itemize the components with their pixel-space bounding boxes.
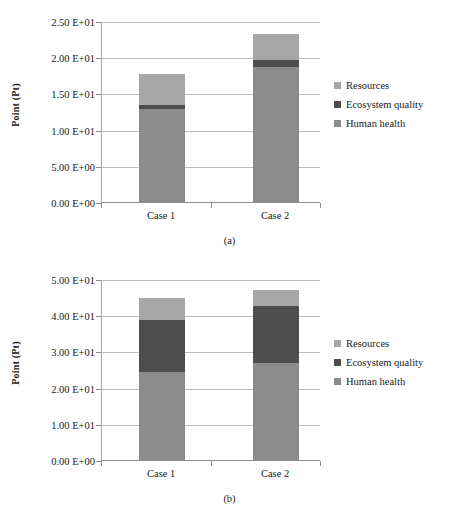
x-tick-label: Case 2 xyxy=(235,210,315,221)
figure-panel-a: Point (Pt)0.00 E+005.00 E+001.00 E+011.5… xyxy=(0,0,459,260)
y-tick-label: 5.00 E+00 xyxy=(5,161,95,172)
y-tick-label: 1.00 E+01 xyxy=(5,419,95,430)
y-tick-mark xyxy=(96,22,101,23)
bar-segment-human-health xyxy=(253,67,299,203)
x-tick-mark xyxy=(101,461,102,466)
stacked-bar xyxy=(139,298,185,461)
y-axis-title: Point (Pt) xyxy=(10,308,21,418)
y-tick-label: 3.00 E+01 xyxy=(5,347,95,358)
legend-item: Resources xyxy=(334,338,459,349)
x-tick-label: Case 1 xyxy=(121,210,201,221)
y-tick-label: 2.00 E+01 xyxy=(5,53,95,64)
x-tick-label: Case 1 xyxy=(121,468,201,479)
legend-item: Resources xyxy=(334,80,459,91)
legend-swatch-icon xyxy=(334,82,341,89)
y-tick-mark xyxy=(96,131,101,132)
y-tick-label: 2.50 E+01 xyxy=(5,17,95,28)
y-tick-mark xyxy=(96,352,101,353)
panel-caption: (b) xyxy=(0,493,459,504)
plot-area xyxy=(101,280,320,461)
y-tick-mark xyxy=(96,94,101,95)
x-tick-mark xyxy=(101,203,102,208)
bar-segment-resources xyxy=(253,34,299,59)
legend-swatch-icon xyxy=(334,378,341,385)
legend-item: Human health xyxy=(334,376,459,387)
bar-segment-ecosystem-quality xyxy=(253,60,299,67)
y-tick-label: 1.50 E+01 xyxy=(5,89,95,100)
y-tick-mark xyxy=(96,389,101,390)
figure-panel-b: Point (Pt)0.00 E+001.00 E+012.00 E+013.0… xyxy=(0,258,459,518)
bar-segment-resources xyxy=(139,74,185,104)
legend-label: Human health xyxy=(346,376,405,387)
y-tick-label: 0.00 E+00 xyxy=(5,456,95,467)
legend-item: Human health xyxy=(334,118,459,129)
stacked-bar xyxy=(253,290,299,461)
legend-swatch-icon xyxy=(334,120,341,127)
y-gridline xyxy=(102,22,320,23)
legend-label: Ecosystem quality xyxy=(346,357,423,368)
x-tick-mark xyxy=(211,461,212,466)
x-tick-mark xyxy=(211,203,212,208)
y-tick-mark xyxy=(96,58,101,59)
legend-item: Ecosystem quality xyxy=(334,99,459,110)
y-tick-label: 4.00 E+01 xyxy=(5,311,95,322)
legend-label: Resources xyxy=(346,338,389,349)
legend-label: Human health xyxy=(346,118,405,129)
bar-segment-human-health xyxy=(253,363,299,461)
y-gridline xyxy=(102,280,320,281)
bar-segment-human-health xyxy=(139,372,185,461)
legend-swatch-icon xyxy=(334,101,341,108)
x-tick-mark xyxy=(320,461,321,466)
legend-swatch-icon xyxy=(334,359,341,366)
y-tick-label: 0.00 E+00 xyxy=(5,198,95,209)
legend: ResourcesEcosystem qualityHuman health xyxy=(334,338,459,395)
stacked-bar xyxy=(139,74,185,203)
x-tick-mark xyxy=(320,203,321,208)
y-axis-title: Point (Pt) xyxy=(10,50,21,160)
y-tick-mark xyxy=(96,425,101,426)
y-tick-label: 5.00 E+01 xyxy=(5,275,95,286)
y-tick-label: 2.00 E+01 xyxy=(5,383,95,394)
bar-segment-resources xyxy=(139,298,185,320)
legend: ResourcesEcosystem qualityHuman health xyxy=(334,80,459,137)
legend-label: Resources xyxy=(346,80,389,91)
y-tick-mark xyxy=(96,167,101,168)
legend-swatch-icon xyxy=(334,340,341,347)
stacked-bar xyxy=(253,34,299,203)
bar-segment-ecosystem-quality xyxy=(139,320,185,372)
panel-caption: (a) xyxy=(0,235,459,246)
y-tick-label: 1.00 E+01 xyxy=(5,125,95,136)
y-tick-mark xyxy=(96,280,101,281)
bar-segment-ecosystem-quality xyxy=(253,306,299,363)
legend-label: Ecosystem quality xyxy=(346,99,423,110)
bar-segment-human-health xyxy=(139,109,185,203)
y-tick-mark xyxy=(96,316,101,317)
plot-area xyxy=(101,22,320,203)
legend-item: Ecosystem quality xyxy=(334,357,459,368)
bar-segment-resources xyxy=(253,290,299,306)
x-tick-label: Case 2 xyxy=(235,468,315,479)
